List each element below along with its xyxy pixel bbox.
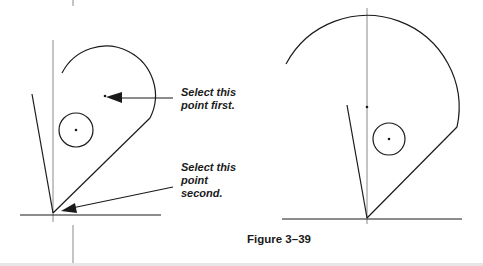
slanted-line	[32, 94, 53, 213]
figure-caption: Figure 3–39	[247, 233, 311, 245]
tangent-line-right	[367, 127, 457, 218]
annotation-second: Select this point second.	[181, 161, 236, 200]
arrow-second-head	[61, 203, 77, 213]
right-drawing	[282, 8, 462, 224]
small-circle-center	[75, 129, 78, 132]
arc-center-point	[104, 95, 107, 98]
arrow-first-head	[106, 92, 122, 103]
small-circle-center-right	[388, 138, 391, 141]
left-drawing	[20, 40, 173, 266]
tangent-line	[53, 118, 150, 213]
drawing	[0, 0, 483, 266]
arrow-second-shaft	[72, 187, 173, 208]
large-arc	[286, 15, 459, 127]
figure-canvas: Select this point first. Select this poi…	[0, 0, 483, 266]
slanted-line-right	[347, 105, 367, 218]
arc	[62, 46, 155, 118]
annotation-first: Select this point first.	[181, 86, 236, 112]
arc-center-point-right	[366, 106, 369, 109]
